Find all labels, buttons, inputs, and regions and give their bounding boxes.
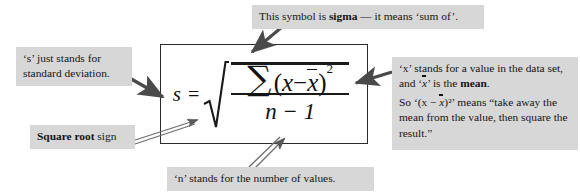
x-note-line1b: ’ is the [427,77,460,89]
n-note: ‘n’ stands for the number of values. [167,167,374,191]
sigma-note: This symbol is sigma — it means ‘sum of’… [252,5,484,29]
square-root-note-text: Square root sign [37,129,128,144]
x-note: ‘x’ stands for a value in the data set, … [392,57,578,150]
s-note-text: ‘s’ just stands for standard deviation. [23,51,125,81]
x-note-mean-symbol-2: x [439,95,444,110]
x-note-paragraph-2: So ‘(x − x)²’ means “take away the mean … [399,95,571,140]
x-note-paragraph-1: ‘x’ stands for a value in the data set, … [399,61,571,91]
n-note-text: ‘n’ stands for the number of values. [174,171,367,186]
sigma-note-tail: — it means ‘sum of’. [357,10,458,22]
x-note-line1end: . [487,77,490,89]
square-root-note-tail: sign [95,130,117,142]
square-root-note: Square root sign [30,125,135,149]
figure-root: s = ∑ (x−x)2 n − 1 [0,0,580,196]
x-note-bold-mean: mean [460,77,487,89]
sigma-note-text: This symbol is sigma — it means ‘sum of’… [259,9,477,24]
sigma-note-lead: This symbol is [259,10,329,22]
sigma-note-bold: sigma [329,10,357,22]
x-note-line2a: So ‘(x − [399,96,439,108]
formula-border-box [160,44,368,144]
x-note-mean-symbol-1: x [422,76,427,91]
square-root-note-bold: Square root [37,130,95,142]
s-note: ‘s’ just stands for standard deviation. [16,47,132,86]
